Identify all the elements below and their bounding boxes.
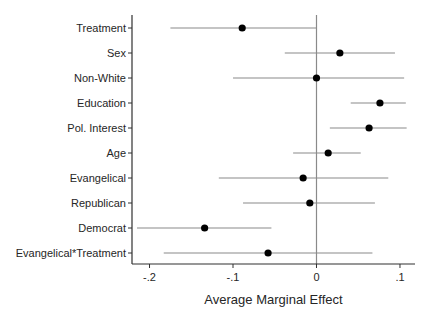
estimate-dot (239, 24, 246, 31)
category-label: Treatment (76, 22, 126, 34)
category-label: Evangelical*Treatment (16, 247, 126, 259)
estimate-dot (313, 74, 320, 81)
estimate-dot (376, 99, 383, 106)
x-tick-label: -.1 (227, 271, 240, 283)
category-label: Pol. Interest (67, 122, 126, 134)
category-label: Evangelical (70, 172, 126, 184)
category-label: Sex (107, 47, 126, 59)
category-label: Republican (71, 197, 126, 209)
x-axis-title: Average Marginal Effect (132, 292, 415, 308)
x-tick-label: -.2 (143, 271, 156, 283)
category-label: Democrat (78, 222, 126, 234)
x-tick-label: 0 (313, 271, 319, 283)
coefficient-plot-figure: TreatmentSexNon-WhiteEducationPol. Inter… (0, 0, 431, 322)
category-label: Non-White (74, 72, 126, 84)
estimate-dot (365, 124, 372, 131)
estimate-dot (336, 49, 343, 56)
category-label: Education (77, 97, 126, 109)
estimate-dot (300, 174, 307, 181)
estimate-dot (306, 199, 313, 206)
chart-svg: TreatmentSexNon-WhiteEducationPol. Inter… (0, 0, 431, 322)
estimate-dot (264, 249, 271, 256)
estimate-dot (325, 149, 332, 156)
x-tick-label: .1 (395, 271, 404, 283)
estimate-dot (201, 224, 208, 231)
category-label: Age (106, 147, 126, 159)
